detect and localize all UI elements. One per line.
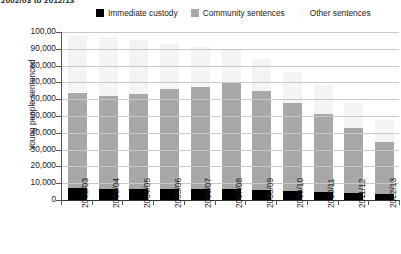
x-tick-mark xyxy=(61,200,62,205)
x-tick-label: 2009/10 xyxy=(295,178,305,208)
y-tick-label: 10,000 xyxy=(0,178,56,187)
bar-segment-other-sentences xyxy=(375,120,394,142)
plot-area xyxy=(61,32,399,200)
bar-segment-community-sentences xyxy=(191,87,210,188)
x-tick-label: 2006/07 xyxy=(203,178,213,208)
stacked-bar-chart: 2002/03 to 2012/13 Immediate custody Com… xyxy=(0,0,401,254)
x-tick-label: 2008/09 xyxy=(265,178,275,208)
y-tick-label: 100,00 xyxy=(0,27,56,36)
x-tick-label: 2002/03 xyxy=(80,178,90,208)
y-tick-label: 40,000 xyxy=(0,128,56,137)
x-tick-mark xyxy=(276,200,277,205)
x-tick-label: 2007/08 xyxy=(234,178,244,208)
x-tick-label: 2011/12 xyxy=(357,179,367,208)
x-tick-mark xyxy=(215,200,216,205)
gridline xyxy=(62,66,399,67)
gridline xyxy=(62,166,399,167)
x-tick-label: 2004/05 xyxy=(142,178,152,208)
x-axis-tick-labels: 2002/032003/042004/052005/062006/072007/… xyxy=(61,206,399,254)
y-tick-label: 50,000 xyxy=(0,111,56,120)
x-tick-mark xyxy=(368,200,369,205)
x-tick-mark xyxy=(307,200,308,205)
bar-segment-other-sentences xyxy=(68,36,87,92)
x-tick-mark xyxy=(399,200,400,205)
bar-segment-other-sentences xyxy=(283,72,302,102)
bar-segment-community-sentences xyxy=(129,94,148,188)
y-tick-label: 90,000 xyxy=(0,44,56,53)
gridline xyxy=(62,133,399,134)
gridline xyxy=(62,82,399,83)
bar-segment-community-sentences xyxy=(99,96,118,189)
y-tick-label: 20,000 xyxy=(0,161,56,170)
x-tick-mark xyxy=(153,200,154,205)
bar-segment-community-sentences xyxy=(160,89,179,188)
gridline xyxy=(62,150,399,151)
x-tick-label: 2005/06 xyxy=(173,178,183,208)
gridline xyxy=(62,49,399,50)
x-tick-label: 2022/13 xyxy=(388,178,398,208)
bar-segment-community-sentences xyxy=(68,93,87,189)
x-tick-mark xyxy=(122,200,123,205)
x-tick-mark xyxy=(184,200,185,205)
x-tick-label: 2010/11 xyxy=(326,179,336,208)
y-tick-label: 0 xyxy=(0,195,56,204)
gridline xyxy=(62,32,399,33)
x-tick-label: 2003/04 xyxy=(111,178,121,208)
y-tick-label: 30,000 xyxy=(0,145,56,154)
x-tick-mark xyxy=(92,200,93,205)
bar-segment-community-sentences xyxy=(252,91,271,190)
y-tick-label: 80,000 xyxy=(0,61,56,70)
x-tick-mark xyxy=(338,200,339,205)
bar-segment-other-sentences xyxy=(252,59,271,91)
x-tick-mark xyxy=(245,200,246,205)
gridline xyxy=(62,116,399,117)
y-tick-label: 60,000 xyxy=(0,94,56,103)
gridline xyxy=(62,99,399,100)
y-tick-label: 70,000 xyxy=(0,77,56,86)
